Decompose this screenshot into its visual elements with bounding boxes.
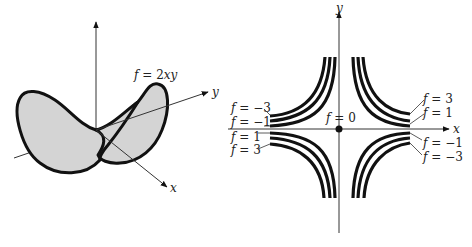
label-left-f-1: f = 1	[230, 130, 261, 144]
label-left-f-minus1: f = −1	[230, 115, 271, 129]
saddle-surface-right-lobe	[96, 84, 168, 163]
x-axis-label-3d: x	[170, 181, 177, 195]
label-right-f-minus1: f = −1	[422, 136, 463, 150]
level-curve-3-q3	[270, 144, 324, 198]
level-curve-minus1a-q4	[353, 133, 410, 198]
saddle-surface-panel: y x f = 2xy	[14, 22, 219, 195]
level-curve-minus3-q4	[364, 143, 410, 198]
quadrant-3-curves	[270, 133, 335, 198]
leader-line	[410, 114, 424, 124]
origin-level-label: f = 0	[325, 111, 356, 125]
level-curve-minus1a-q2	[270, 57, 330, 121]
quadrant-1-curves	[353, 57, 410, 126]
y-axis-label: y	[335, 1, 343, 15]
figure-canvas: y x f = 2xy x y f = 0	[0, 0, 472, 247]
label-right-f-1: f = 1	[422, 106, 453, 120]
function-label: f = 2xy	[133, 68, 178, 82]
level-curve-minus3-q2	[270, 57, 325, 116]
label-right-f-minus3: f = −3	[422, 150, 463, 164]
label-left-f-minus3: f = −3	[230, 101, 271, 115]
leader-line	[410, 133, 422, 140]
level-curve-1a-q1	[353, 57, 410, 126]
level-curve-3-q1	[363, 57, 410, 114]
label-left-f-3: f = 3	[230, 143, 261, 157]
label-right-f-3: f = 3	[422, 92, 453, 106]
level-curve-1b-q3	[270, 138, 330, 198]
y-axis-label-3d: y	[211, 85, 219, 99]
origin-point	[336, 126, 343, 133]
x-axis-label: x	[453, 122, 460, 136]
level-curve-1a-q3	[270, 133, 335, 198]
leader-line	[410, 143, 422, 155]
level-curves-panel: x y f = 0 f = −3	[228, 1, 463, 233]
leader-line	[410, 100, 424, 114]
quadrant-4-curves	[353, 133, 410, 198]
